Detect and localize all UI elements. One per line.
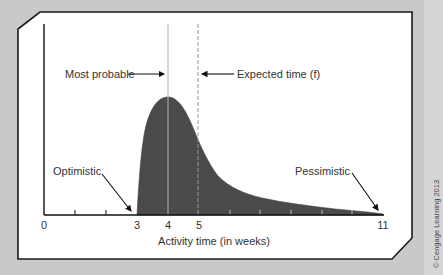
x-tick-label-11: 11 <box>377 219 388 231</box>
x-tick-label-0: 0 <box>41 219 47 231</box>
expected-time-label: Expected time (f) <box>237 68 320 80</box>
x-axis-title: Activity time (in weeks) <box>158 235 270 247</box>
pessimistic-label: Pessimistic <box>295 165 351 177</box>
beta-distribution-figure: Most probable Expected time (f) Optimist… <box>0 0 443 275</box>
most-probable-label: Most probable <box>65 68 135 80</box>
figure-frame <box>18 12 412 259</box>
x-tick-label-3: 3 <box>134 219 140 231</box>
x-tick-label-5: 5 <box>196 219 202 231</box>
x-tick-label-4: 4 <box>165 219 171 231</box>
optimistic-label: Optimistic <box>53 165 102 177</box>
copyright-credit: © Cengage Learning 2013 <box>432 180 441 268</box>
